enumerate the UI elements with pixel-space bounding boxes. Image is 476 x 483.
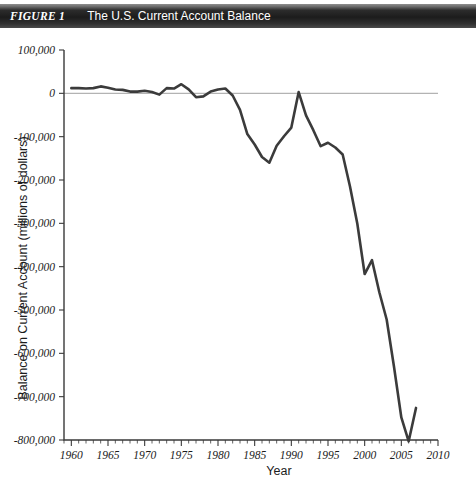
chart-container: 100,0000-100,000-200,000-300,000-400,000… [0, 28, 476, 483]
x-tick-label: 1990 [280, 449, 303, 461]
figure-number-label: FIGURE 1 [10, 10, 65, 22]
x-tick-label: 1980 [207, 449, 230, 461]
y-axis-title: Balance on Current Account (millions of … [16, 136, 30, 399]
x-tick-label: 1995 [317, 449, 340, 461]
x-tick-label: 1985 [243, 449, 266, 461]
y-tick-label: -800,000 [14, 434, 55, 447]
figure-header-bar: FIGURE 1 The U.S. Current Account Balanc… [0, 4, 476, 28]
chart-axes [64, 50, 438, 440]
data-series-line [71, 84, 416, 441]
x-tick-label: 2000 [353, 449, 376, 461]
y-tick-label: 0 [49, 87, 55, 99]
x-tick-label: 1970 [133, 449, 156, 461]
x-axis-title: Year [266, 464, 291, 478]
x-tick-label: 2010 [427, 449, 450, 461]
figure-title: The U.S. Current Account Balance [87, 9, 270, 23]
x-axis-tick-labels: 1960196519701975198019851990199520002005… [60, 449, 450, 461]
current-account-balance-line-chart: 100,0000-100,000-200,000-300,000-400,000… [0, 28, 476, 483]
x-tick-label: 2005 [390, 449, 413, 461]
y-tick-label: 100,000 [18, 44, 56, 57]
x-tick-label: 1965 [97, 449, 120, 461]
x-tick-label: 1960 [60, 449, 83, 461]
y-axis-ticks [59, 50, 64, 440]
x-tick-label: 1975 [170, 449, 193, 461]
x-axis-ticks [71, 440, 438, 446]
